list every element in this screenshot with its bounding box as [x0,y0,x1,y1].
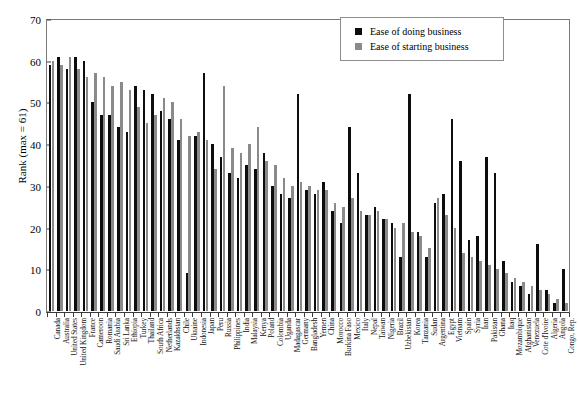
bar-starting-business [428,248,431,311]
bar-starting-business [539,290,542,311]
bar-starting-business [154,115,157,311]
bar-starting-business [283,178,286,311]
bar-starting-business [419,236,422,311]
bar-starting-business [317,190,320,311]
x-tick-label: Brazil [397,318,404,335]
bar-starting-business [496,269,499,311]
x-tick-label: Colombia [277,318,284,346]
bar-starting-business [146,123,149,311]
bar-group [296,20,305,311]
x-tick-mark [312,313,313,317]
x-tick-mark [509,313,510,317]
bar-starting-business [479,261,482,311]
bar-starting-business [505,273,508,311]
x-tick-label: Ethiopia [131,318,138,342]
bar-group [476,20,485,311]
bar-starting-business [129,90,132,311]
bar-group [390,20,399,311]
bar-starting-business [231,148,234,311]
x-tick-label: Poland [268,318,275,338]
x-tick-mark [552,313,553,317]
bar-starting-business [291,186,294,311]
bar-starting-business [188,136,191,311]
bar-group [339,20,348,311]
x-tick-mark [201,313,202,317]
bar-chart: Rank (max = 61) 010203040506070 CanadaAu… [0,0,578,393]
bar-starting-business [60,65,63,311]
x-tick-label: Ghana [499,318,506,337]
x-tick-mark [321,313,322,317]
bar-starting-business [257,127,260,311]
bar-group [510,20,519,311]
x-tick-label: Bangladesh [311,318,318,351]
x-tick-label: France [89,318,96,337]
x-tick-mark [107,313,108,317]
x-tick-label: Cameroon [97,318,104,348]
bar-starting-business [120,82,123,311]
bar-starting-business [360,211,363,311]
bars-container [48,20,568,311]
bar-starting-business [351,198,354,311]
bar-starting-business [462,253,465,311]
x-tick-mark [432,313,433,317]
x-axis-labels: CanadaAustraliaUnited StatesUnited Kingd… [46,318,570,393]
x-tick-mark [218,313,219,317]
bar-group [399,20,408,311]
x-tick-label: Iran [482,318,489,329]
bar-group [322,20,331,311]
legend-label: Ease of starting business [370,41,469,52]
bar-starting-business [342,207,345,311]
bar-group [108,20,117,311]
x-tick-label: Romania [106,318,113,344]
bar-group [202,20,211,311]
bar-starting-business [308,186,311,311]
x-tick-mark [184,313,185,317]
x-tick-label: Thailand [148,318,155,343]
x-tick-mark [261,313,262,317]
x-tick-mark [64,313,65,317]
legend-label: Ease of doing business [370,26,461,37]
bar-starting-business [437,198,440,311]
legend-item: Ease of doing business [341,24,503,39]
x-tick-mark [158,313,159,317]
x-tick-mark [381,313,382,317]
bar-starting-business [377,211,380,311]
x-tick-label: Saudi Arabia [114,318,121,355]
bar-group [373,20,382,311]
x-tick-label: Sudan [431,318,438,336]
bar-starting-business [488,265,491,311]
bar-starting-business [402,223,405,311]
bar-group [151,20,160,311]
bar-group [467,20,476,311]
bar-starting-business [514,278,517,311]
bar-starting-business [171,102,174,311]
bar-starting-business [197,132,200,311]
x-tick-label: Italy [362,318,369,331]
x-tick-label: Philippines [234,318,241,350]
bar-starting-business [471,257,474,311]
x-tick-mark [329,313,330,317]
x-tick-label: Venezuela [533,318,540,347]
bar-group [211,20,220,311]
x-tick-label: Kazakhstan [174,318,181,351]
x-tick-mark [424,313,425,317]
x-tick-label: Algeria [551,318,558,339]
bar-starting-business [86,77,89,311]
y-tick-label: 70 [30,14,47,26]
bar-group [48,20,57,311]
x-tick-label: Morocco [337,318,344,344]
bar-starting-business [206,140,209,311]
bar-group [279,20,288,311]
legend-swatch-icon [355,43,362,50]
bar-starting-business [240,153,243,312]
bar-starting-business [334,203,337,311]
x-tick-label: Korea [414,318,421,335]
bar-group [74,20,83,311]
x-tick-mark [492,313,493,317]
bar-group [176,20,185,311]
x-tick-label: Iraq [508,318,515,329]
bar-group [253,20,262,311]
bar-group [561,20,570,311]
bar-group [236,20,245,311]
bar-starting-business [214,169,217,311]
